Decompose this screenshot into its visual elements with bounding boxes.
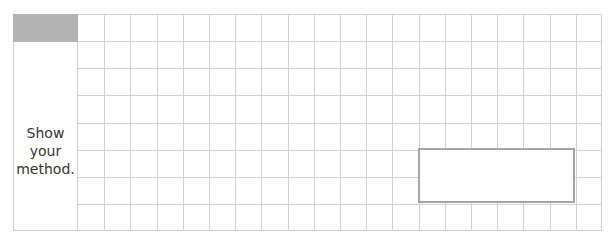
prompt-line-1: Show <box>13 124 78 142</box>
prompt-line-2: your <box>13 142 78 160</box>
prompt-column <box>13 14 78 231</box>
grid-hline <box>78 123 602 124</box>
prompt-line-3: method. <box>13 160 78 178</box>
grid-hline <box>78 68 602 69</box>
header-cell <box>13 14 78 42</box>
grid-hline <box>78 41 602 42</box>
answer-box[interactable] <box>418 148 575 203</box>
grid-hline <box>78 204 602 205</box>
method-prompt: Show your method. <box>13 124 78 178</box>
grid-hline <box>78 95 602 96</box>
